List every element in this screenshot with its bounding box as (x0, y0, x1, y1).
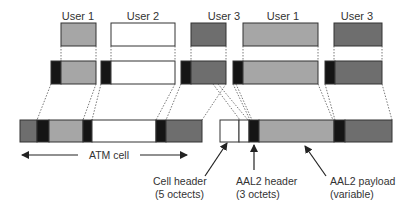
user-label-5: User 3 (341, 10, 373, 22)
segment-user3 (345, 120, 392, 142)
aal2-payload (191, 61, 226, 84)
user-label-1: User 1 (62, 10, 94, 22)
aal2-header-segment (249, 120, 259, 142)
cell-header-pointer (205, 143, 227, 176)
aal2-packet-5 (325, 61, 382, 84)
user-label-4: User 1 (267, 10, 299, 22)
aal2-packet-3 (181, 61, 226, 84)
cell-header-size: (5 octects) (155, 188, 204, 200)
user3b-data-block (334, 23, 382, 46)
user-label-2: User 2 (127, 10, 159, 22)
user2-data-block (111, 23, 175, 46)
aal2-header (51, 61, 61, 84)
aal2-payload-size: (variable) (330, 188, 374, 200)
aal2-packet-4 (233, 61, 318, 84)
aal2-header (325, 61, 335, 84)
aal2-header (101, 61, 111, 84)
aal2-header-segment (37, 120, 49, 142)
segment-user1 (49, 120, 83, 142)
aal2-payload-pointer (305, 146, 326, 176)
atm-cell-label: ATM cell (89, 149, 129, 161)
aal2-header-segment (156, 120, 166, 142)
aal2-header-size: (3 octets) (236, 188, 280, 200)
aal2-payload (111, 61, 175, 84)
cell-header-segment (220, 120, 239, 142)
user1-data-block (61, 23, 96, 46)
user3-data-block (191, 23, 226, 46)
segment-user3-tail (20, 120, 37, 142)
aal2-payload-segment (259, 120, 334, 142)
aal2-packet-2 (101, 61, 175, 84)
vertical-connectors (61, 46, 382, 61)
aal2-header-segment (334, 120, 345, 142)
cell-header-label: Cell header (153, 175, 207, 187)
aal2-header-segment (83, 120, 92, 142)
atm-cell-left (20, 120, 202, 142)
aal2-payload (61, 61, 96, 84)
cell-header-segment-2 (239, 120, 249, 142)
aal2-multiplexing-diagram: User 1 User 2 User 3 User 1 User 3 (0, 0, 414, 215)
user-label-3: User 3 (208, 10, 240, 22)
segment-user2 (92, 120, 156, 142)
mapping-lines (37, 84, 392, 120)
aal2-header-label: AAL2 header (236, 175, 298, 187)
aal2-payload (243, 61, 318, 84)
aal2-header (233, 61, 243, 84)
user1b-data-block (243, 23, 318, 46)
aal2-payload (335, 61, 382, 84)
aal2-packet-1 (51, 61, 96, 84)
aal2-payload-label: AAL2 payload (330, 175, 396, 187)
segment-user3 (166, 120, 202, 142)
atm-cell-right (220, 120, 392, 142)
aal2-header (181, 61, 191, 84)
